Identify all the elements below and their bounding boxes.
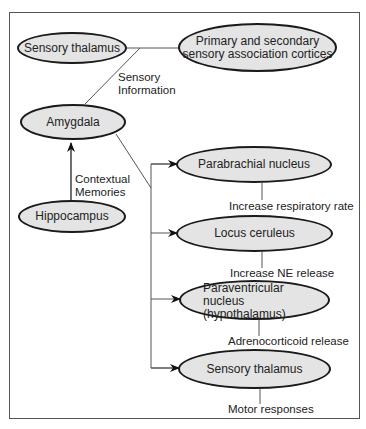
- node-label: Parabrachial nucleus: [198, 158, 310, 171]
- node-parabrachial-nucleus: Parabrachial nucleus: [176, 146, 332, 183]
- node-amygdala: Amygdala: [20, 104, 126, 140]
- node-label-line1: Paraventricular nucleus: [203, 282, 328, 308]
- node-label: Sensory thalamus: [206, 363, 302, 376]
- edge-label-sensory-information: Sensory Information: [118, 71, 176, 97]
- node-sensory-thalamus-bottom: Sensory thalamus: [178, 349, 331, 389]
- node-label-line1: Primary and secondary: [196, 35, 319, 48]
- node-label-line2: sensory association cortices: [182, 48, 332, 61]
- edge-label-contextual-memories: Contextual Memories: [75, 173, 130, 199]
- output-ne-release: Increase NE release: [230, 267, 334, 280]
- node-label-line2: (hypothalamus): [203, 308, 286, 321]
- node-paraventricular-nucleus: Paraventricular nucleus (hypothalamus): [179, 280, 330, 320]
- node-locus-ceruleus: Locus ceruleus: [176, 215, 333, 252]
- node-label: Amygdala: [46, 116, 99, 129]
- node-association-cortices: Primary and secondary sensory associatio…: [178, 23, 337, 72]
- output-motor-responses: Motor responses: [228, 403, 314, 416]
- node-label: Hippocampus: [35, 210, 108, 223]
- output-adrenocorticoid-release: Adrenocorticoid release: [228, 335, 349, 348]
- node-hippocampus: Hippocampus: [18, 200, 126, 233]
- output-respiratory-rate: Increase respiratory rate: [229, 200, 354, 213]
- node-sensory-thalamus-top: Sensory thalamus: [17, 32, 127, 64]
- node-label: Sensory thalamus: [24, 42, 120, 55]
- node-label: Locus ceruleus: [214, 227, 295, 240]
